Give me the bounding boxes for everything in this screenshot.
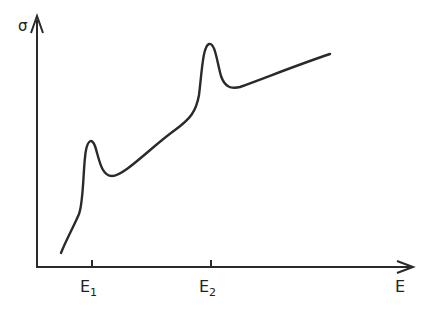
y-axis-label: σ [18,17,28,35]
cross-section-curve [61,44,330,253]
cross-section-diagram: σ E E1 E2 [0,0,445,318]
x-axis-label: E [395,277,405,296]
tick-label-e1: E1 [80,277,97,299]
tick-label-e2: E2 [199,277,216,299]
